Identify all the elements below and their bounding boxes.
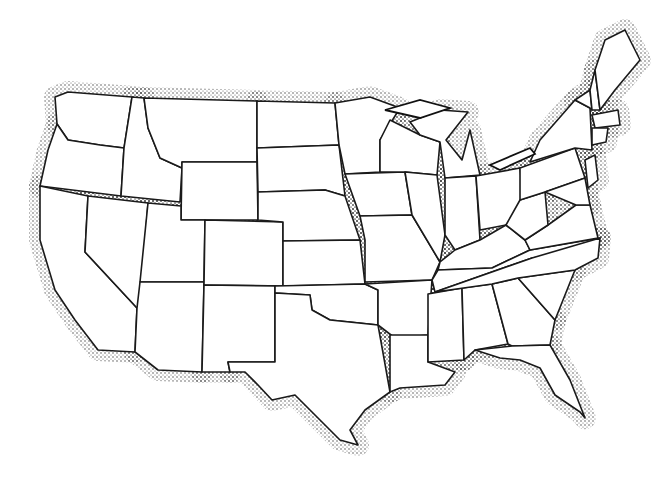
state-ks [283,240,365,286]
state-nm [202,285,275,372]
state-nd [257,101,339,148]
state-in [445,176,480,250]
state-ct [592,128,608,145]
state-co [204,220,283,286]
state-ms [428,288,464,362]
state-wy [181,162,258,220]
state-mt [144,98,257,168]
state-az [135,282,204,372]
map-canvas [0,0,669,485]
state-sd [257,145,345,196]
